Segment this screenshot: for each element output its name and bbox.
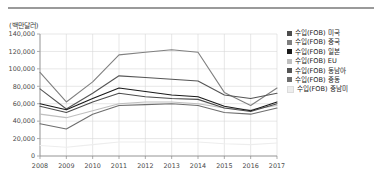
x-axis-tick-label: 2014	[190, 162, 206, 170]
y-axis-tick-label: 20,000	[13, 135, 35, 143]
y-axis-tick-label: 140,000	[9, 30, 35, 38]
y-axis-tick-label: 60,000	[13, 100, 35, 108]
legend-swatch-icon	[287, 77, 292, 82]
x-axis-tick-label: 2012	[137, 162, 153, 170]
legend-label: 수입(FOB) 중동	[295, 76, 340, 84]
x-axis-tick-label: 2011	[111, 162, 127, 170]
legend-swatch-icon	[287, 59, 292, 64]
legend-label: 수입(FOB) 일본	[295, 48, 340, 56]
x-axis-tick-label: 2015	[216, 162, 232, 170]
y-axis-tick-label: 100,000	[9, 65, 35, 73]
legend-item[interactable]: 수입(FOB) 중남미	[287, 85, 348, 93]
legend-swatch-icon	[287, 31, 292, 36]
data-line-series-2	[40, 88, 277, 111]
x-axis-tick-label: 2009	[58, 162, 74, 170]
legend-swatch-icon	[287, 49, 292, 54]
legend-swatch-icon	[287, 86, 294, 93]
x-axis-tick-label: 2013	[164, 162, 180, 170]
legend-item[interactable]: 수입(FOB) 동남아	[287, 67, 348, 75]
legend-label: 수입(FOB) 미국	[295, 29, 340, 37]
legend-item[interactable]: 수입(FOB) 미국	[287, 29, 348, 37]
y-axis-tick-label: 0	[31, 152, 35, 160]
legend-swatch-icon	[287, 68, 292, 73]
legend-item[interactable]: 수입(FOB) EU	[287, 57, 348, 65]
legend-item[interactable]: 수입(FOB) 중국	[287, 38, 348, 46]
top-divider	[8, 7, 374, 9]
y-axis-tick-label: 80,000	[13, 83, 35, 91]
legend-swatch-icon	[287, 40, 292, 45]
legend-label: 수입(FOB) EU	[295, 57, 337, 65]
x-axis-tick-label: 2017	[269, 162, 285, 170]
x-axis-tick-label: 2016	[243, 162, 259, 170]
x-axis-tick-label: 2010	[85, 162, 101, 170]
legend-label: 수입(FOB) 동남아	[295, 67, 346, 75]
y-axis-tick-label: 40,000	[13, 117, 35, 125]
legend-item[interactable]: 수입(FOB) 일본	[287, 48, 348, 56]
legend-label: 수입(FOB) 중국	[295, 38, 340, 46]
x-axis-tick-label: 2008	[32, 162, 48, 170]
legend-item[interactable]: 수입(FOB) 중동	[287, 76, 348, 84]
data-line-series-5	[40, 104, 277, 129]
chart-legend: 수입(FOB) 미국수입(FOB) 중국수입(FOB) 일본수입(FOB) EU…	[287, 29, 348, 93]
y-axis-tick-label: 120,000	[9, 48, 35, 56]
data-line-series-6	[40, 142, 277, 147]
legend-label: 수입(FOB) 중남미	[297, 85, 348, 93]
